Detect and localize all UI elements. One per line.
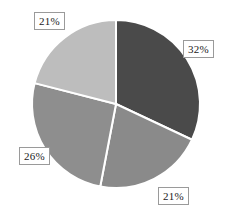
pie-chart-figure: 32% 21% 26% 21%	[0, 0, 229, 217]
pie-slice-label-2: 26%	[19, 147, 50, 165]
pie-slice-label-0: 32%	[183, 40, 214, 58]
pie-slice-label-3: 21%	[34, 12, 65, 30]
pie-slice-group	[32, 20, 200, 188]
pie-chart-canvas	[0, 0, 229, 217]
pie-slice-label-1: 21%	[158, 187, 189, 205]
